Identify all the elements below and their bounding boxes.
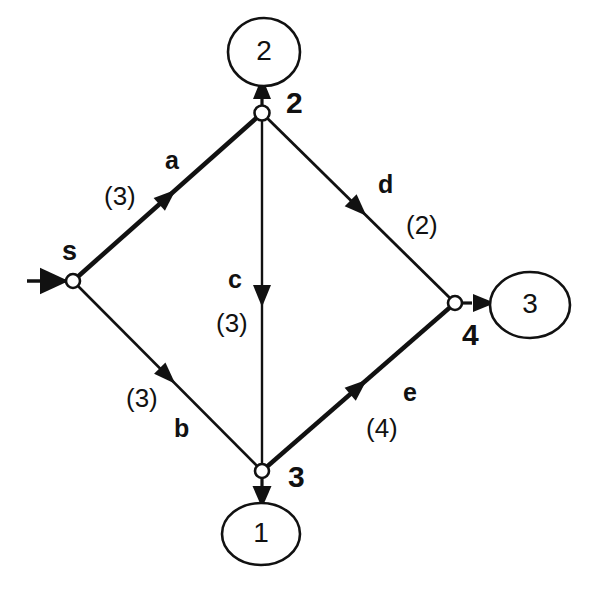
edge-capacity-c: (3) bbox=[216, 310, 248, 336]
terminal-label-1: 1 bbox=[231, 517, 291, 549]
edge-a bbox=[73, 113, 262, 281]
edge-d bbox=[262, 113, 455, 303]
node-4-circle[interactable] bbox=[448, 296, 462, 310]
node-label-4: 4 bbox=[462, 320, 479, 350]
edge-c bbox=[253, 113, 271, 471]
edge-label-e: e bbox=[403, 380, 417, 405]
edge-capacity-e: (4) bbox=[366, 415, 398, 441]
edge-label-d: d bbox=[378, 172, 393, 197]
node-2-circle[interactable] bbox=[255, 106, 270, 121]
edge-label-a: a bbox=[165, 148, 179, 173]
node-label-3: 3 bbox=[288, 462, 305, 492]
node-3-circle[interactable] bbox=[255, 464, 269, 478]
edge-capacity-d: (2) bbox=[406, 212, 438, 238]
node-label-2: 2 bbox=[286, 88, 303, 118]
terminal-label-2: 2 bbox=[234, 35, 294, 67]
node-s-circle[interactable] bbox=[66, 274, 80, 288]
edge-e bbox=[262, 303, 455, 471]
diagram-canvas: 2 1 3 s 2 3 4 a b c d e (3) (3) (3) (2) … bbox=[0, 0, 590, 592]
terminal-label-3: 3 bbox=[500, 288, 560, 320]
edge-label-b: b bbox=[174, 416, 189, 441]
edge-capacity-a: (3) bbox=[104, 183, 136, 209]
node-label-s: s bbox=[62, 238, 77, 265]
edge-capacity-b: (3) bbox=[126, 385, 158, 411]
edge-label-c: c bbox=[228, 267, 242, 292]
